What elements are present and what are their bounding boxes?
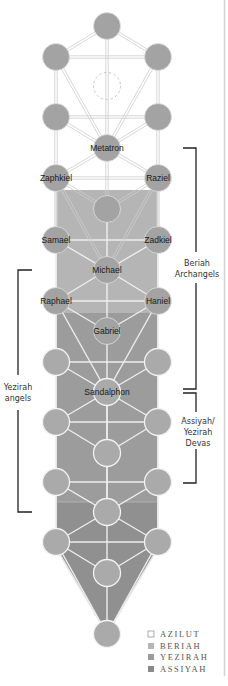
sephirah-node xyxy=(43,104,70,131)
legend-label-assiyah: ASSIYAH xyxy=(160,664,207,674)
sephirah-node xyxy=(145,469,172,496)
sephirah-node xyxy=(94,196,121,223)
sephirah-node xyxy=(145,104,172,131)
sephirah-node xyxy=(43,44,70,71)
sephirah-node xyxy=(43,529,70,556)
beriah-label-line1: Beriah xyxy=(184,259,210,268)
assiyah-label-line1: Assiyah/ xyxy=(181,417,215,426)
legend-label-beriah: BERIAH xyxy=(160,641,201,651)
legend-swatch-beriah xyxy=(148,643,154,649)
daath-hidden-node xyxy=(94,73,121,100)
legend-swatch-yezirah xyxy=(148,654,154,660)
sephirah-node xyxy=(43,469,70,496)
path-line xyxy=(108,58,159,149)
legend-label-yezirah: YEZIRAH xyxy=(160,652,209,662)
node-label: Michael xyxy=(92,265,121,275)
legend-swatch-assiyah xyxy=(148,666,154,672)
path-line xyxy=(57,56,108,147)
node-label: Haniel xyxy=(146,296,170,306)
node-label: Samael xyxy=(42,235,71,245)
node-label: Raphael xyxy=(40,296,72,306)
sephirah-node xyxy=(43,409,70,436)
sephirah-node xyxy=(94,621,121,648)
sephirah-node xyxy=(94,560,121,587)
sephirah-node xyxy=(94,440,121,467)
legend-label-azilut: AZILUT xyxy=(160,629,200,639)
yezirah-label-line2: angels xyxy=(5,394,31,403)
bracket-assiyah xyxy=(183,393,196,483)
legend: AZILUT BERIAH YEZIRAH ASSIYAH xyxy=(148,629,209,674)
bracket-beriah xyxy=(183,148,196,389)
sephirah-node xyxy=(145,529,172,556)
sephirah-node xyxy=(94,499,121,526)
sephirah-node xyxy=(145,44,172,71)
legend-swatch-azilut xyxy=(148,631,154,637)
node-label: Sandalphon xyxy=(84,387,130,397)
sephirah-node xyxy=(145,349,172,376)
assiyah-label-line3: Devas xyxy=(186,439,211,448)
node-label: Zadkiel xyxy=(144,235,172,245)
node-label: Zaphkiel xyxy=(40,173,72,183)
node-label: Metatron xyxy=(90,143,124,153)
yezirah-label-line1: Yezirah xyxy=(3,383,32,392)
sephirah-node xyxy=(145,409,172,436)
path-line xyxy=(106,56,157,147)
sephirah-node xyxy=(43,349,70,376)
sephirah-node xyxy=(94,13,121,40)
node-label: Raziel xyxy=(146,173,170,183)
beriah-label-line2: Archangels xyxy=(175,270,219,279)
path-line xyxy=(55,58,106,149)
tree-of-life-diagram: MetatronZaphkielRazielSamaelZadkielMicha… xyxy=(0,0,228,686)
assiyah-label-line2: Yezirah xyxy=(183,428,212,437)
node-label: Gabriel xyxy=(93,326,121,336)
